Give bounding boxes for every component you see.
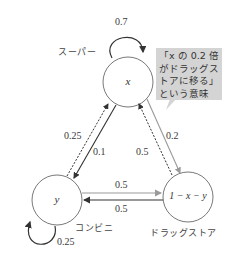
diagram-canvas [0, 0, 234, 264]
edge-x-x [110, 37, 143, 58]
node-y-label: y [47, 193, 67, 205]
node-z-label: 1 − x − y [163, 190, 213, 201]
store-label-drugstore: ドラッグストア [150, 229, 217, 238]
edge-x-y [74, 105, 116, 178]
store-label-super: スーパー [58, 48, 96, 57]
weight-y-z: 0.5 [115, 180, 128, 190]
explanation-callout: 「x の 0.2 倍 がドラッグス トアに移る」 という意味 [156, 48, 222, 100]
weight-x-z: 0.2 [166, 131, 179, 141]
callout-line-3: トアに移る」 [159, 75, 219, 88]
callout-line-4: という意味 [159, 88, 219, 101]
callout-pointer [166, 99, 176, 110]
edge-y-y [28, 222, 55, 244]
node-x-label: x [118, 75, 138, 87]
weight-y-y: 0.25 [57, 237, 75, 247]
weight-x-x: 0.7 [115, 17, 128, 27]
weight-z-x: 0.5 [136, 147, 149, 157]
callout-line-1: 「x の 0.2 倍 [159, 50, 219, 63]
weight-z-y: 0.5 [115, 204, 128, 214]
weight-y-x: 0.25 [64, 131, 82, 141]
callout-line-2: がドラッグス [159, 63, 219, 76]
store-label-conbini: コンビニ [75, 224, 113, 233]
weight-x-y: 0.1 [93, 147, 106, 157]
